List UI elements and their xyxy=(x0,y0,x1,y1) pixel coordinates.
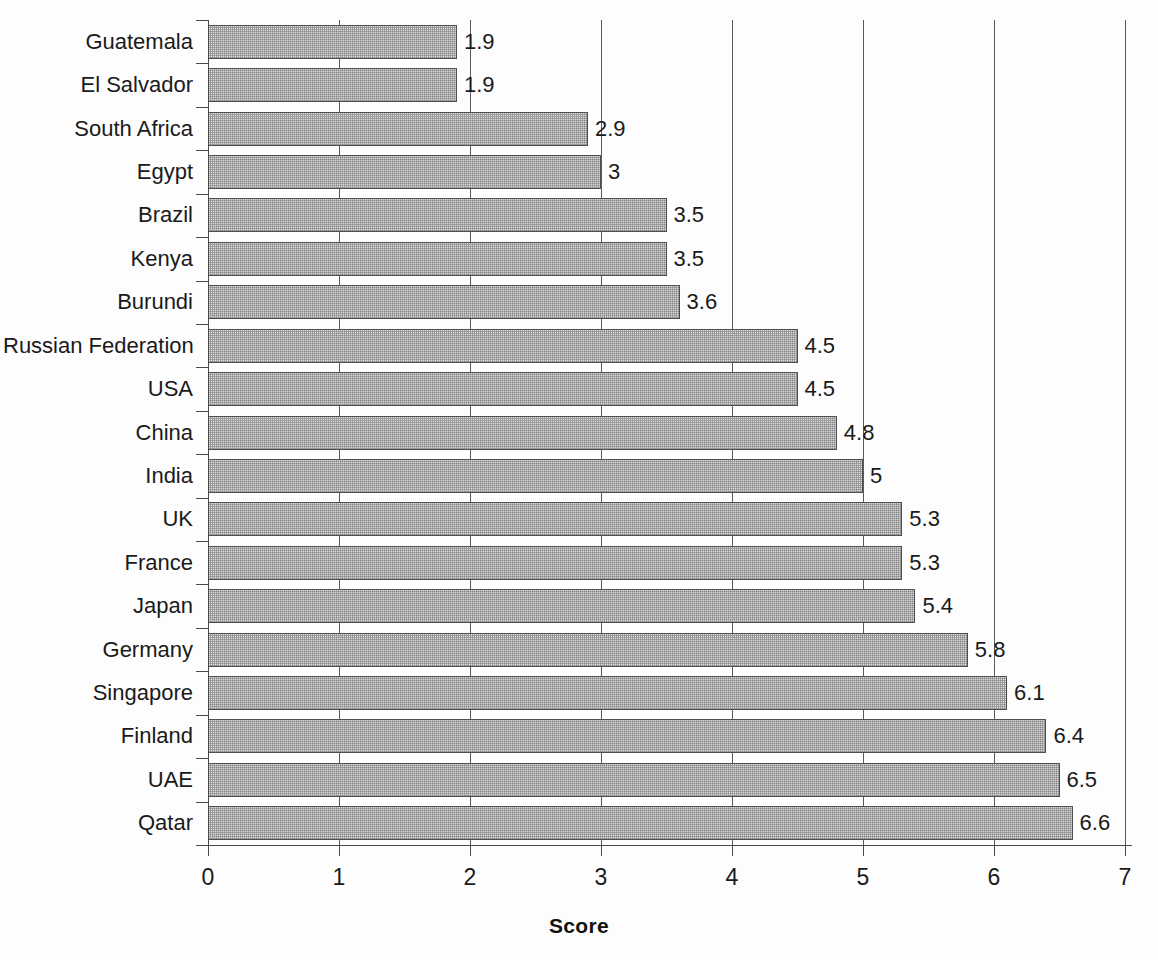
y-tick xyxy=(196,628,208,629)
bar-value-label: 6.4 xyxy=(1053,725,1084,747)
y-tick xyxy=(196,20,208,21)
bar-row: 5 xyxy=(208,459,1125,493)
category-label-china: China xyxy=(3,422,193,444)
bar-value-label: 5 xyxy=(870,465,882,487)
category-label-el-salvador: El Salvador xyxy=(3,74,193,96)
x-tick-label-1: 1 xyxy=(333,866,346,889)
bar-row: 1.9 xyxy=(208,25,1125,59)
bar-singapore xyxy=(208,676,1007,710)
category-label-india: India xyxy=(3,465,193,487)
bar-russian-federation xyxy=(208,329,798,363)
x-tick-label-4: 4 xyxy=(726,866,739,889)
bar-row: 6.4 xyxy=(208,719,1125,753)
x-tick-7 xyxy=(1125,845,1126,856)
bar-value-label: 3.6 xyxy=(687,291,718,313)
category-label-burundi: Burundi xyxy=(3,291,193,313)
y-tick xyxy=(196,194,208,195)
x-tick-2 xyxy=(470,845,471,856)
category-label-egypt: Egypt xyxy=(3,161,193,183)
x-tick-label-0: 0 xyxy=(202,866,215,889)
bar-china xyxy=(208,416,837,450)
y-tick xyxy=(196,107,208,108)
bar-value-label: 1.9 xyxy=(464,74,495,96)
bar-value-label: 5.3 xyxy=(909,508,940,530)
bar-egypt xyxy=(208,155,601,189)
bar-row: 4.8 xyxy=(208,416,1125,450)
x-tick-0 xyxy=(208,845,209,856)
x-tick-1 xyxy=(339,845,340,856)
bar-finland xyxy=(208,719,1046,753)
category-label-uk: UK xyxy=(3,508,193,530)
x-tick-label-5: 5 xyxy=(857,866,870,889)
y-tick xyxy=(196,758,208,759)
bar-france xyxy=(208,546,902,580)
y-tick xyxy=(196,715,208,716)
y-tick xyxy=(196,367,208,368)
category-label-germany: Germany xyxy=(3,639,193,661)
y-tick xyxy=(196,150,208,151)
category-label-japan: Japan xyxy=(3,595,193,617)
bar-value-label: 6.5 xyxy=(1067,769,1098,791)
bar-japan xyxy=(208,589,915,623)
x-tick-label-3: 3 xyxy=(595,866,608,889)
bar-row: 5.4 xyxy=(208,589,1125,623)
bar-value-label: 3.5 xyxy=(674,248,705,270)
bar-value-label: 5.8 xyxy=(975,639,1006,661)
bar-south-africa xyxy=(208,112,588,146)
x-tick-3 xyxy=(601,845,602,856)
y-tick xyxy=(196,63,208,64)
bar-guatemala xyxy=(208,25,457,59)
category-label-qatar: Qatar xyxy=(3,812,193,834)
x-tick-4 xyxy=(732,845,733,856)
category-axis: GuatemalaEl SalvadorSouth AfricaEgyptBra… xyxy=(0,0,193,960)
x-tick-label-2: 2 xyxy=(464,866,477,889)
bar-value-label: 1.9 xyxy=(464,31,495,53)
bar-row: 3.6 xyxy=(208,285,1125,319)
bar-brazil xyxy=(208,198,667,232)
x-tick-label-6: 6 xyxy=(988,866,1001,889)
bar-value-label: 4.5 xyxy=(805,378,836,400)
y-tick xyxy=(196,237,208,238)
bar-el-salvador xyxy=(208,68,457,102)
category-label-brazil: Brazil xyxy=(3,204,193,226)
bar-value-label: 5.3 xyxy=(909,552,940,574)
bar-row: 3 xyxy=(208,155,1125,189)
category-label-uae: UAE xyxy=(3,769,193,791)
y-tick xyxy=(196,454,208,455)
bar-value-label: 4.5 xyxy=(805,335,836,357)
category-label-south-africa: South Africa xyxy=(3,118,193,140)
y-tick xyxy=(196,411,208,412)
bar-value-label: 4.8 xyxy=(844,422,875,444)
y-tick xyxy=(196,584,208,585)
bar-row: 3.5 xyxy=(208,242,1125,276)
x-tick-label-7: 7 xyxy=(1119,866,1132,889)
bar-chart: GuatemalaEl SalvadorSouth AfricaEgyptBra… xyxy=(0,0,1158,960)
bar-row: 5.3 xyxy=(208,502,1125,536)
category-label-kenya: Kenya xyxy=(3,248,193,270)
bar-value-label: 3 xyxy=(608,161,620,183)
bar-value-label: 6.6 xyxy=(1080,812,1111,834)
bar-value-label: 5.4 xyxy=(922,595,953,617)
bar-qatar xyxy=(208,806,1073,840)
bar-row: 4.5 xyxy=(208,329,1125,363)
plot-area: 1.91.92.933.53.53.64.54.54.855.35.35.45.… xyxy=(208,20,1125,845)
category-label-finland: Finland xyxy=(3,725,193,747)
category-label-singapore: Singapore xyxy=(3,682,193,704)
bar-value-label: 3.5 xyxy=(674,204,705,226)
y-tick xyxy=(196,281,208,282)
bar-row: 4.5 xyxy=(208,372,1125,406)
y-tick xyxy=(196,802,208,803)
y-tick xyxy=(196,845,208,846)
y-axis-line xyxy=(208,20,209,846)
bar-usa xyxy=(208,372,798,406)
category-label-guatemala: Guatemala xyxy=(3,31,193,53)
bar-kenya xyxy=(208,242,667,276)
bar-value-label: 2.9 xyxy=(595,118,626,140)
bar-row: 1.9 xyxy=(208,68,1125,102)
y-tick xyxy=(196,541,208,542)
bar-value-label: 6.1 xyxy=(1014,682,1045,704)
bar-row: 6.6 xyxy=(208,806,1125,840)
bar-row: 3.5 xyxy=(208,198,1125,232)
category-label-france: France xyxy=(3,552,193,574)
bar-row: 5.3 xyxy=(208,546,1125,580)
